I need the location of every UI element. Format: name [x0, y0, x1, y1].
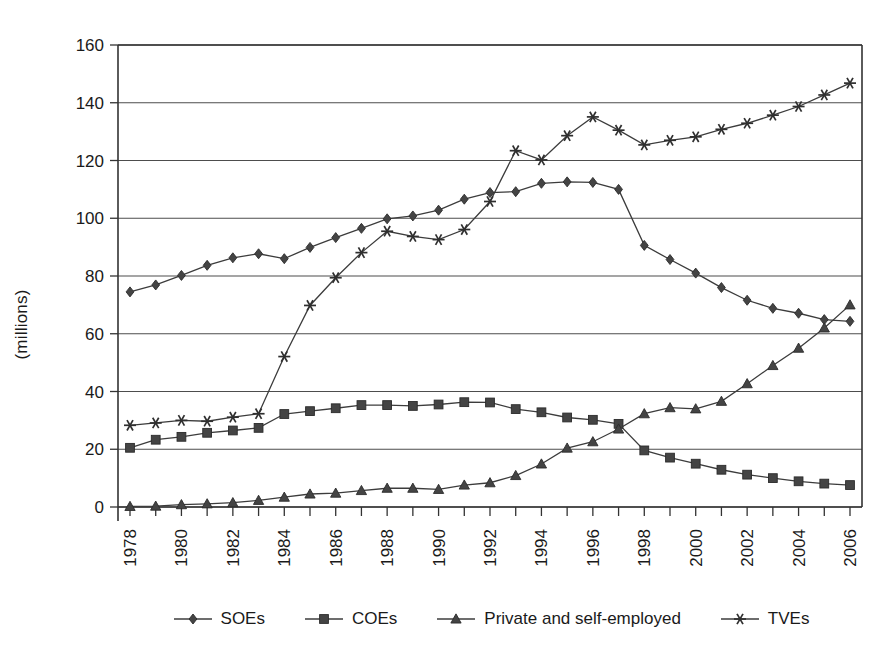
data-point-diamond: [332, 233, 340, 243]
data-point-star: [818, 90, 830, 100]
x-tick-label: 1988: [378, 529, 397, 567]
legend-label: COEs: [352, 610, 397, 629]
data-point-square: [228, 426, 237, 435]
legend-marker-star: [734, 614, 746, 624]
legend-item-soes[interactable]: SOEs: [172, 610, 265, 629]
data-point-square: [537, 408, 546, 417]
data-point-square: [486, 398, 495, 407]
x-tick-label: 1990: [430, 529, 449, 567]
data-point-triangle: [665, 403, 675, 412]
y-tick-label: 60: [85, 325, 104, 344]
legend-marker-star-icon: [719, 610, 761, 628]
data-point-square: [846, 481, 855, 490]
y-tick-label: 20: [85, 440, 104, 459]
data-point-square: [460, 398, 469, 407]
data-point-triangle: [768, 360, 778, 369]
legend-item-tves[interactable]: TVEs: [719, 610, 810, 629]
x-tick-label: 1978: [121, 529, 140, 567]
data-point-square: [203, 428, 212, 437]
data-point-star: [715, 124, 727, 134]
line-chart-plot: 020406080100120140160 197819801982198419…: [0, 0, 895, 600]
legend-label: SOEs: [221, 610, 265, 629]
legend-item-private-and-self-employed[interactable]: Private and self-employed: [435, 610, 681, 629]
data-point-diamond: [280, 254, 288, 264]
data-point-star: [613, 125, 625, 135]
data-point-square: [588, 415, 597, 424]
data-point-diamond: [383, 214, 391, 224]
y-tick-label: 40: [85, 383, 104, 402]
x-tick-label: 1980: [172, 529, 191, 567]
data-point-diamond: [358, 223, 366, 233]
data-point-diamond: [538, 178, 546, 188]
data-point-triangle: [793, 343, 803, 352]
data-point-square: [408, 402, 417, 411]
data-point-square: [357, 401, 366, 410]
data-point-triangle: [716, 396, 726, 405]
data-point-square: [331, 404, 340, 413]
data-point-triangle: [845, 300, 855, 309]
x-tick-label: 1986: [327, 529, 346, 567]
data-point-diamond: [640, 240, 648, 250]
data-point-square: [640, 446, 649, 455]
x-tick-label: 1992: [481, 529, 500, 567]
legend-marker-square-icon: [303, 610, 345, 628]
data-point-square: [743, 470, 752, 479]
y-tick-label: 140: [76, 94, 104, 113]
data-point-square: [126, 443, 135, 452]
series-markers-group: [124, 78, 856, 511]
data-point-star: [253, 409, 265, 419]
x-tick-label: 1994: [532, 529, 551, 567]
series-line-tves: [130, 83, 850, 425]
data-point-star: [741, 118, 753, 128]
x-tick-label: 1984: [275, 529, 294, 567]
data-point-diamond: [692, 268, 700, 278]
data-point-diamond: [563, 177, 571, 187]
gridlines-group: [110, 45, 862, 507]
data-point-square: [768, 474, 777, 483]
y-tick-labels-group: 020406080100120140160: [76, 36, 104, 517]
y-tick-label: 80: [85, 267, 104, 286]
data-point-square: [717, 465, 726, 474]
data-point-square: [280, 410, 289, 419]
data-point-triangle: [742, 379, 752, 388]
legend-marker-diamond-icon: [172, 610, 214, 628]
data-point-square: [151, 435, 160, 444]
data-point-square: [254, 423, 263, 432]
series-line-coes: [130, 402, 850, 485]
y-tick-label: 0: [95, 498, 104, 517]
data-point-square: [666, 453, 675, 462]
x-tick-label: 2002: [738, 529, 757, 567]
legend-label: TVEs: [768, 610, 810, 629]
series-markers-soes: [126, 177, 854, 326]
data-point-star: [175, 415, 187, 425]
data-point-diamond: [229, 253, 237, 263]
data-point-diamond: [589, 177, 597, 187]
y-tick-label: 120: [76, 152, 104, 171]
data-point-diamond: [795, 308, 803, 318]
legend-label: Private and self-employed: [484, 610, 681, 629]
data-point-square: [794, 477, 803, 486]
data-point-diamond: [666, 255, 674, 265]
data-point-square: [563, 413, 572, 422]
x-tick-label: 2000: [687, 529, 706, 567]
x-tick-label: 1998: [635, 529, 654, 567]
series-lines-group: [130, 83, 850, 506]
data-point-triangle: [588, 437, 598, 446]
data-point-triangle: [536, 459, 546, 468]
legend-item-coes[interactable]: COEs: [303, 610, 397, 629]
data-point-diamond: [152, 280, 160, 290]
data-point-diamond: [769, 303, 777, 313]
data-point-star: [407, 231, 419, 241]
data-point-diamond: [512, 187, 520, 197]
y-tick-label: 100: [76, 209, 104, 228]
data-point-diamond: [743, 295, 751, 305]
data-point-star: [150, 418, 162, 428]
x-tick-marks-group: [130, 507, 850, 516]
data-point-diamond: [306, 242, 314, 252]
data-point-star: [844, 78, 856, 88]
data-point-star: [690, 132, 702, 142]
data-point-diamond: [460, 194, 468, 204]
x-tick-label: 2006: [841, 529, 860, 567]
data-point-square: [434, 400, 443, 409]
data-point-star: [278, 351, 290, 361]
